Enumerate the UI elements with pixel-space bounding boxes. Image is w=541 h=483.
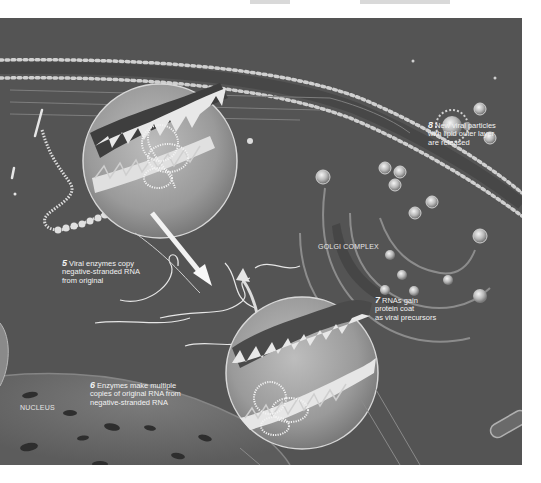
step-5-label: 5Viral enzymes copy negative-stranded RN… xyxy=(62,250,140,285)
mitochondrion xyxy=(488,408,522,440)
arrow-up-icon xyxy=(236,268,258,318)
cell-illustration xyxy=(0,18,522,465)
magnified-rna-multiply-icon xyxy=(226,297,378,449)
step-6-label: 6Enzymes make multiple copies of origina… xyxy=(90,372,181,407)
golgi-complex-label: GOLGI COMPLEX xyxy=(318,243,379,250)
step-7-label: 7RNAs gain protein coat as viral precurs… xyxy=(375,287,436,322)
cropped-header-text xyxy=(250,0,290,4)
nucleus-label: NUCLEUS xyxy=(20,404,55,411)
virus-particles xyxy=(247,60,497,304)
step-8-label: 8New viral particles with lipid outer la… xyxy=(428,112,496,147)
illustration-panel: 8New viral particles with lipid outer la… xyxy=(0,18,522,465)
cropped-header-text xyxy=(360,0,450,4)
